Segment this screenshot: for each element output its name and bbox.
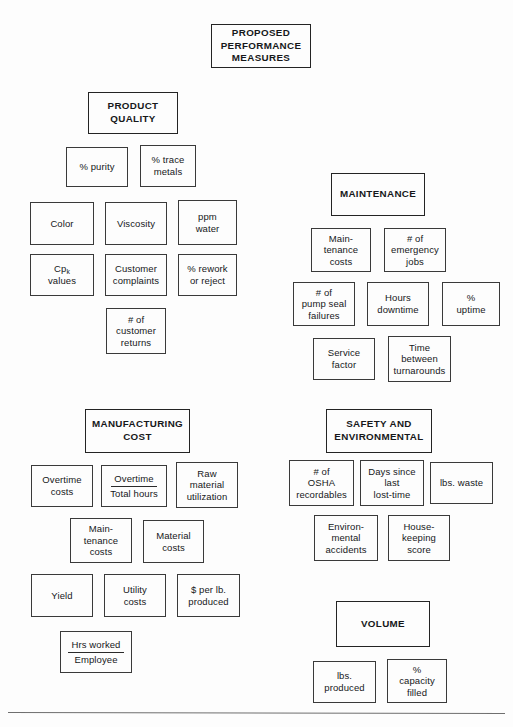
measure-box-time-between-turnarounds: Time between turnarounds	[388, 336, 451, 382]
measure-label: Environ- mental accidents	[325, 521, 366, 556]
measure-box-environmental-accidents: Environ- mental accidents	[314, 515, 378, 561]
measure-box-percent-rework-or-reject: % rework or reject	[178, 254, 237, 296]
measure-label: Yield	[51, 590, 72, 602]
measure-label: Days since last lost-time	[368, 466, 415, 501]
measure-label: Utility costs	[123, 584, 147, 607]
measure-box-hours-downtime: Hours downtime	[367, 282, 429, 326]
measure-box-hrs-worked-per-employee: Hrs worked Employee	[60, 631, 132, 673]
measure-label: Material costs	[156, 530, 191, 553]
measure-label: Color	[50, 218, 73, 230]
measure-box-yield: Yield	[31, 574, 93, 617]
section-title-maintenance: MAINTENANCE	[340, 188, 416, 201]
measure-box-lbs-waste: lbs. waste	[430, 462, 493, 504]
section-header-volume: VOLUME	[336, 601, 430, 647]
measure-box-overtime-costs: Overtime costs	[31, 465, 93, 507]
measure-box-percent-trace-metals: % trace metals	[140, 145, 196, 187]
measure-label: Hours downtime	[377, 292, 418, 315]
cpk-subscript: k	[66, 268, 70, 275]
measure-label: # of emergency jobs	[391, 233, 439, 268]
cpk-prefix: Cp	[54, 263, 66, 274]
measure-box-color: Color	[30, 202, 94, 245]
measure-label: House- keeping score	[402, 521, 436, 556]
section-header-safety-and-environmental: SAFETY AND ENVIRONMENTAL	[326, 409, 432, 453]
measure-box-viscosity: Viscosity	[105, 202, 167, 245]
measure-label: % rework or reject	[187, 263, 227, 286]
measure-label: Time between turnarounds	[394, 342, 446, 377]
section-title-product-quality: PRODUCT QUALITY	[108, 100, 159, 125]
diagram-canvas: PROPOSED PERFORMANCE MEASURES PRODUCT QU…	[0, 0, 513, 727]
fraction-numerator: Overtime	[111, 473, 156, 487]
measure-box-maintenance-costs: Main- tenance costs	[311, 228, 371, 272]
measure-label: $ per lb. produced	[188, 584, 228, 607]
measure-label: Cpkvalues	[48, 263, 76, 286]
measure-box-overtime-per-total-hours: Overtime Total hours	[101, 465, 167, 507]
measure-label: Main- tenance costs	[84, 523, 119, 558]
measure-box-customer-returns: # of customer returns	[106, 308, 166, 354]
measure-label: # of customer returns	[116, 314, 156, 349]
diagram-title-text: PROPOSED PERFORMANCE MEASURES	[221, 27, 302, 65]
measure-label: Main- tenance costs	[324, 233, 359, 268]
diagram-title-box: PROPOSED PERFORMANCE MEASURES	[211, 24, 311, 68]
page-bottom-rule	[8, 712, 505, 714]
measure-box-days-since-last-lost-time: Days since last lost-time	[360, 460, 424, 506]
measure-box-ppm-water: ppm water	[178, 200, 237, 245]
measure-box-emergency-jobs: # of emergency jobs	[384, 228, 446, 272]
measure-label: Service factor	[328, 347, 360, 370]
measure-box-percent-purity: % purity	[66, 147, 128, 187]
fraction-denominator: Employee	[71, 653, 120, 666]
measure-box-pump-seal-failures: # of pump seal failures	[293, 282, 355, 326]
measure-box-service-factor: Service factor	[313, 338, 375, 380]
measure-label: % capacity filled	[399, 664, 435, 699]
fraction-numerator: Hrs worked	[68, 639, 123, 653]
measure-label: # of pump seal failures	[302, 287, 347, 322]
section-header-maintenance: MAINTENANCE	[331, 173, 425, 216]
measure-label: lbs. waste	[440, 477, 483, 489]
measure-box-housekeeping-score: House- keeping score	[388, 515, 450, 561]
measure-box-osha-recordables: # of OSHA recordables	[289, 460, 354, 506]
measure-box-mfg-maintenance-costs: Main- tenance costs	[70, 518, 132, 563]
measure-box-material-costs: Material costs	[143, 520, 204, 563]
measure-box-dollar-per-lb-produced: $ per lb. produced	[177, 574, 240, 617]
section-title-safety-and-environmental: SAFETY AND ENVIRONMENTAL	[334, 418, 423, 443]
measure-box-raw-material-utilization: Raw material utilization	[176, 462, 238, 508]
measure-label: Customer complaints	[113, 263, 159, 286]
measure-label: Raw material utilization	[187, 468, 228, 503]
measure-label: Viscosity	[117, 218, 155, 230]
measure-box-percent-uptime: % uptime	[442, 282, 500, 326]
measure-label: ppm water	[196, 211, 220, 234]
measure-label: % trace metals	[152, 154, 185, 177]
cpk-suffix: values	[48, 275, 76, 286]
measure-label: Overtime costs	[42, 474, 81, 497]
section-title-manufacturing-cost: MANUFACTURING COST	[92, 418, 183, 443]
section-header-manufacturing-cost: MANUFACTURING COST	[85, 409, 190, 453]
measure-box-utility-costs: Utility costs	[104, 574, 166, 617]
measure-label: % purity	[79, 161, 114, 173]
measure-box-customer-complaints: Customer complaints	[105, 254, 167, 296]
section-title-volume: VOLUME	[361, 618, 405, 631]
measure-box-lbs-produced: lbs. produced	[313, 661, 376, 703]
measure-label: # of OSHA recordables	[296, 466, 347, 501]
measure-label: % uptime	[456, 292, 485, 315]
section-header-product-quality: PRODUCT QUALITY	[88, 92, 178, 134]
measure-box-cpk-values: Cpkvalues	[30, 254, 94, 296]
measure-box-percent-capacity-filled: % capacity filled	[387, 659, 447, 703]
fraction-denominator: Total hours	[107, 487, 161, 500]
measure-label: lbs. produced	[324, 670, 364, 693]
